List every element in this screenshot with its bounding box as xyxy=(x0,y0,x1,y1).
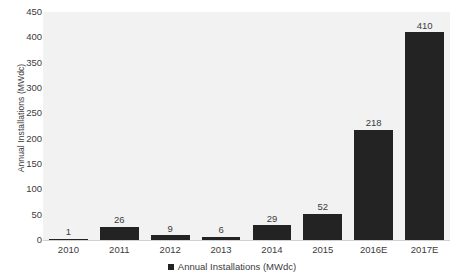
bar-group: 1 xyxy=(43,12,94,240)
x-axis-tick-label: 2011 xyxy=(94,243,145,257)
chart-legend: Annual Installations (MWdc) xyxy=(0,262,464,272)
x-axis-tick-labels: 2010201120122013201420152016E2017E xyxy=(43,243,450,259)
legend-swatch-icon xyxy=(168,264,174,270)
x-axis-tick-label: 2016E xyxy=(348,243,399,257)
bar xyxy=(354,130,393,240)
bar-chart: 450400350300250200150100500 Annual Insta… xyxy=(0,0,464,280)
bar-group: 9 xyxy=(145,12,196,240)
x-axis-tick-label: 2013 xyxy=(196,243,247,257)
legend-label: Annual Installations (MWdc) xyxy=(178,262,296,272)
bar xyxy=(253,225,292,240)
x-axis-tick-label: 2010 xyxy=(43,243,94,257)
bar-group: 26 xyxy=(94,12,145,240)
bar-group: 6 xyxy=(196,12,247,240)
bar-group: 410 xyxy=(399,12,450,240)
bar xyxy=(100,227,139,240)
y-axis-tick-label: 0 xyxy=(8,235,42,245)
bar-value-label: 29 xyxy=(247,214,298,224)
x-axis-tick-label: 2014 xyxy=(247,243,298,257)
bars-layer: 126962952218410 xyxy=(43,12,450,240)
bar xyxy=(405,32,444,240)
bar-value-label: 1 xyxy=(43,227,94,237)
bar-group: 218 xyxy=(348,12,399,240)
bar-group: 29 xyxy=(247,12,298,240)
bar-value-label: 6 xyxy=(196,225,247,235)
bar-value-label: 9 xyxy=(145,224,196,234)
x-axis-line xyxy=(43,240,450,241)
bar-value-label: 52 xyxy=(297,202,348,212)
y-axis-title: Annual Installations (MWdc) xyxy=(16,3,26,233)
bar-value-label: 218 xyxy=(348,118,399,128)
x-axis-tick-label: 2012 xyxy=(145,243,196,257)
bar-value-label: 410 xyxy=(399,21,450,31)
bar-value-label: 26 xyxy=(94,215,145,225)
bar xyxy=(303,214,342,240)
bar-group: 52 xyxy=(297,12,348,240)
x-axis-tick-label: 2017E xyxy=(399,243,450,257)
x-axis-tick-label: 2015 xyxy=(297,243,348,257)
